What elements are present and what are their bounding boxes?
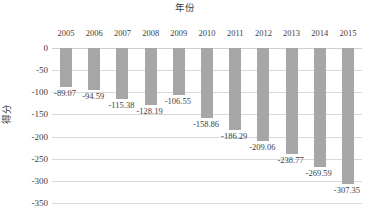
bar-slot	[221, 48, 249, 203]
data-label-2011: -186.29	[221, 131, 247, 141]
chart-title: 年份	[0, 2, 371, 14]
x-tick-label-2010: 2010	[193, 27, 221, 40]
x-tick-label-2008: 2008	[137, 27, 165, 40]
bar-2006[interactable]	[88, 48, 100, 90]
bar-slot	[278, 48, 306, 203]
x-tick-label-2009: 2009	[165, 27, 193, 40]
bar-2007[interactable]	[116, 48, 128, 99]
bar-2012[interactable]	[257, 48, 269, 141]
bar-chart: 年份 得分 2005200620072008200920102011201220…	[0, 0, 371, 222]
y-tick-label--150: -150	[4, 110, 48, 119]
bar-slot	[334, 48, 362, 203]
bar-2015[interactable]	[342, 48, 354, 184]
plot-area: -89.07-94.59-115.38-128.19-106.55-158.86…	[52, 48, 362, 203]
bar-2009[interactable]	[173, 48, 185, 95]
y-tick-label-0: 0	[4, 44, 48, 53]
bar-slot	[306, 48, 334, 203]
data-label-2010: -158.86	[193, 119, 219, 129]
y-tick-label--250: -250	[4, 154, 48, 163]
x-tick-label-2005: 2005	[52, 27, 80, 40]
x-tick-label-2012: 2012	[249, 27, 277, 40]
y-tick-label--100: -100	[4, 88, 48, 97]
x-axis-tick-labels: 2005200620072008200920102011201220132014…	[52, 27, 362, 40]
y-tick-label--300: -300	[4, 176, 48, 185]
bar-2005[interactable]	[60, 48, 72, 87]
x-tick-label-2011: 2011	[221, 27, 249, 40]
bar-slot	[52, 48, 80, 203]
data-label-2014: -269.59	[306, 168, 332, 178]
y-tick-label--50: -50	[4, 66, 48, 75]
bar-2013[interactable]	[286, 48, 298, 154]
bar-2014[interactable]	[314, 48, 326, 167]
bar-slot	[108, 48, 136, 203]
y-tick-label--200: -200	[4, 132, 48, 141]
data-label-2009: -106.55	[165, 96, 191, 106]
x-tick-label-2007: 2007	[108, 27, 136, 40]
bar-slot	[80, 48, 108, 203]
y-tick-label--350: -350	[4, 199, 48, 208]
x-tick-label-2013: 2013	[278, 27, 306, 40]
bar-slot	[137, 48, 165, 203]
gridline	[52, 203, 362, 204]
data-label-2015: -307.35	[334, 185, 360, 195]
data-label-2006: -94.59	[82, 91, 104, 101]
y-axis-tick-labels: 0-50-100-150-200-250-300-350	[0, 48, 48, 203]
data-label-2012: -209.06	[249, 142, 275, 152]
x-tick-label-2014: 2014	[306, 27, 334, 40]
x-tick-label-2015: 2015	[334, 27, 362, 40]
bar-slot	[165, 48, 193, 203]
data-label-2007: -115.38	[109, 100, 135, 110]
bar-2010[interactable]	[201, 48, 213, 118]
bar-2008[interactable]	[145, 48, 157, 105]
data-label-2008: -128.19	[137, 106, 163, 116]
data-label-2013: -238.77	[277, 155, 303, 165]
bar-slot	[249, 48, 277, 203]
data-label-2005: -89.07	[54, 88, 76, 98]
bar-2011[interactable]	[229, 48, 241, 130]
x-tick-label-2006: 2006	[80, 27, 108, 40]
